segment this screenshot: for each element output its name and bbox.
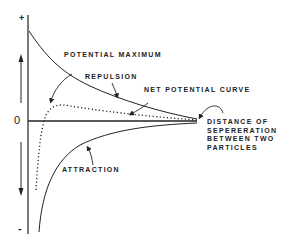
net-potential-curve-label: NET POTENTIAL CURVE — [144, 86, 251, 95]
distance-label-line-2: SEPERERATION — [207, 127, 277, 136]
repulsion-pointer-icon — [112, 83, 117, 96]
plus-label: + — [19, 13, 24, 23]
potential-maximum-label: POTENTIAL MAXIMUM — [64, 51, 162, 60]
down-arrow-icon — [19, 142, 24, 196]
attraction-pointer-icon — [88, 148, 93, 165]
zero-label: 0 — [14, 114, 20, 126]
distance-pointer-icon — [200, 106, 223, 117]
distance-label-line-1: DISTANCE OF — [207, 118, 277, 127]
repulsion-label: REPULSION — [85, 73, 138, 82]
minus-label: - — [18, 222, 22, 234]
attraction-label: ATTRACTION — [62, 166, 120, 175]
potential-energy-diagram: + 0 - POTENTIAL MAXIMUM REPULSION NET PO… — [0, 0, 286, 242]
attraction-curve — [39, 123, 197, 232]
distance-label-line-3: BETWEEN TWO — [207, 135, 277, 144]
potential-maximum-pointer-icon — [51, 74, 72, 101]
up-arrow-icon — [19, 54, 24, 103]
distance-label-line-4: PARTICLES — [207, 144, 277, 153]
net-potential-curve — [36, 105, 197, 190]
distance-label: DISTANCE OF SEPERERATION BETWEEN TWO PAR… — [207, 118, 277, 152]
